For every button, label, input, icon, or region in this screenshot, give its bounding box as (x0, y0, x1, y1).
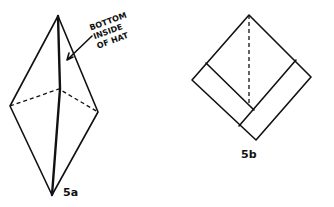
origami-diagram: BOTTOM INSIDE OF HAT 5a 5b (0, 0, 334, 207)
figure-5a: BOTTOM INSIDE OF HAT 5a (10, 11, 130, 199)
square-outline (192, 15, 311, 140)
center-fold (52, 16, 60, 195)
figure-label-5b: 5b (241, 148, 257, 161)
figure-5b: 5b (192, 15, 311, 161)
figure-label-5a: 5a (63, 186, 78, 199)
hidden-crease (10, 89, 98, 112)
brim-fold-left (206, 63, 254, 110)
brim-fold-right (239, 60, 296, 126)
